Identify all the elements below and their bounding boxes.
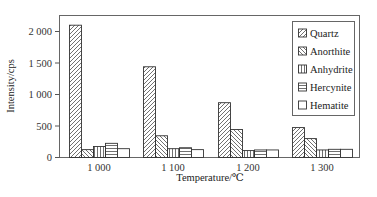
y-tick-label: 0 [47,152,52,163]
legend-swatch [299,65,307,73]
bar-hercynite [255,150,267,158]
x-axis-title: Temperature/℃ [176,172,244,183]
bar-anhydrite [317,150,329,158]
bar-hercynite [329,149,341,157]
y-tick-label: 2 000 [28,26,52,37]
legend-label: Quartz [310,28,339,39]
bar-group [219,103,279,158]
legend: QuartzAnorthiteAnhydriteHercyniteHematit… [293,22,355,116]
bar-anorthite [82,150,94,158]
bar-hematite [118,149,130,158]
bar-hematite [192,150,204,158]
legend-item-anhydrite: Anhydrite [299,64,353,75]
bar-hercynite [180,148,192,158]
bar-quartz [70,25,82,157]
legend-swatch [299,83,307,91]
bar-quartz [293,128,305,158]
legend-item-quartz: Quartz [299,28,339,39]
legend-label: Anorthite [310,46,351,57]
legend-item-hercynite: Hercynite [299,82,352,93]
bar-chart: 05001 0001 5002 000 1 0001 1001 2001 300… [0,0,377,197]
legend-label: Hercynite [310,82,352,93]
bar-anorthite [156,136,168,158]
bar-group [144,67,204,158]
bar-group [293,128,353,158]
bar-anorthite [305,139,317,158]
legend-item-anorthite: Anorthite [299,46,351,57]
bar-quartz [144,67,156,158]
bar-anhydrite [94,146,106,157]
bar-quartz [219,103,231,158]
bar-anhydrite [168,149,180,158]
y-tick-label: 500 [36,121,52,132]
legend-label: Anhydrite [310,64,353,75]
bar-anorthite [231,129,243,157]
y-axis-title: Intensity/cps [5,59,16,113]
bar-anhydrite [243,151,255,158]
bar-hematite [267,150,279,158]
legend-swatch [299,47,307,55]
x-tick-label: 1 300 [310,162,334,173]
bar-hercynite [106,143,118,157]
x-tick-label: 1 000 [87,162,111,173]
legend-swatch [299,29,307,37]
y-tick-label: 1 000 [28,89,52,100]
y-tick-label: 1 500 [28,58,52,69]
legend-item-hematite: Hematite [299,100,349,111]
bar-group [70,25,130,157]
bar-hematite [341,149,353,157]
legend-label: Hematite [310,100,349,111]
legend-swatch [299,101,307,109]
y-axis: 05001 0001 5002 000 [28,26,59,163]
